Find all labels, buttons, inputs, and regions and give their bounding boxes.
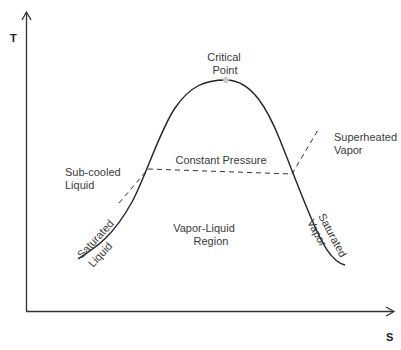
- subcooled-liquid-label-line1: Sub-cooled: [65, 166, 121, 178]
- superheated-vapor-label-line2: Vapor: [334, 144, 363, 156]
- vapor-liquid-region-label-line1: Vapor-Liquid: [173, 222, 235, 234]
- superheated-dashed-line: [292, 130, 318, 174]
- constant-pressure-line: [148, 169, 292, 174]
- ts-diagram: T S Critical Point Constant Pressure Sub…: [0, 0, 401, 350]
- critical-point-label-line2: Point: [212, 64, 237, 76]
- y-axis: [22, 12, 31, 311]
- superheated-vapor-label-line1: Superheated: [334, 131, 397, 143]
- subcooled-liquid-label-line2: Liquid: [65, 179, 94, 191]
- x-axis: [26, 307, 394, 316]
- x-axis-label: S: [386, 331, 393, 343]
- critical-point-marker: [223, 77, 229, 83]
- constant-pressure-label: Constant Pressure: [175, 154, 266, 166]
- y-axis-label: T: [10, 32, 17, 44]
- critical-point-label-line1: Critical: [207, 51, 241, 63]
- vapor-liquid-region-label-line2: Region: [194, 235, 229, 247]
